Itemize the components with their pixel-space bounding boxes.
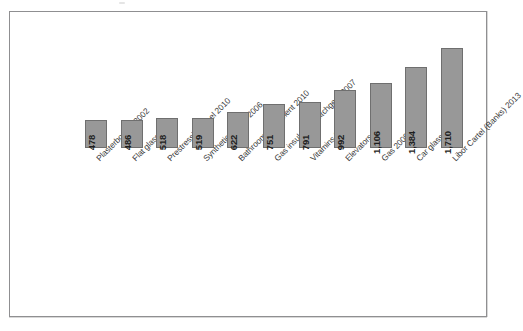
bar[interactable]: 622 [227, 112, 249, 148]
bar-group: 486 [114, 12, 150, 148]
bar-value-label: 791 [300, 134, 310, 149]
bar-value-label: 478 [87, 134, 97, 149]
bar[interactable]: 791 [299, 102, 321, 148]
bar[interactable]: 478 [85, 120, 107, 148]
bar[interactable]: 1,106 [370, 83, 392, 148]
bar-value-label: 751 [265, 134, 275, 149]
bar-group: 992 [327, 12, 363, 148]
plot-area: 478Plasterboards 2002486Flat glass 20075… [10, 12, 488, 318]
bar-value-label: 622 [229, 134, 239, 149]
scan-artifact [119, 2, 125, 4]
bar[interactable]: 486 [121, 120, 143, 148]
bar-group: 751 [256, 12, 292, 148]
bar-group: 519 [185, 12, 221, 148]
bar[interactable]: 1,384 [405, 67, 427, 148]
bar-group: 518 [149, 12, 185, 148]
bar-group: 1,710 [434, 12, 470, 148]
bar-group: 791 [292, 12, 328, 148]
bar[interactable]: 519 [192, 118, 214, 148]
bar-group: 622 [220, 12, 256, 148]
chart-frame: 478Plasterboards 2002486Flat glass 20075… [9, 11, 487, 317]
bar-group: 1,384 [398, 12, 434, 148]
bar-group: 1,106 [363, 12, 399, 148]
bar[interactable]: 992 [334, 90, 356, 148]
bar-value-label: 1,384 [407, 131, 417, 154]
bar[interactable]: 518 [156, 118, 178, 148]
bar-value-label: 519 [193, 134, 203, 149]
bar-value-label: 992 [336, 134, 346, 149]
bar-value-label: 486 [122, 134, 132, 149]
bar-value-label: 518 [158, 134, 168, 149]
bar[interactable]: 751 [263, 104, 285, 148]
bar[interactable]: 1,710 [441, 48, 463, 148]
bar-value-label: 1,710 [443, 131, 453, 154]
bar-value-label: 1,106 [371, 131, 381, 154]
bar-group: 478 [78, 12, 114, 148]
